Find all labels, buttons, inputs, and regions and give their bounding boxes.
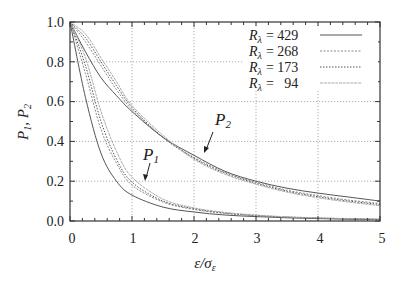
y-tick-labels: 0.0 0.2 0.4 0.6 0.8 1.0: [47, 15, 65, 229]
x-tick-label: 4: [317, 231, 324, 246]
legend: Rλ= 429 Rλ= 268 Rλ= 173 Rλ= 94: [244, 26, 378, 93]
x-tick-label: 1: [130, 231, 137, 246]
y-tick-label: 1.0: [47, 15, 65, 30]
y-tick-label: 0.6: [47, 94, 65, 109]
y-tick-label: 0.8: [47, 55, 65, 70]
x-tick-label: 3: [254, 231, 261, 246]
y-axis-label: P1, P2: [15, 104, 33, 141]
svg-text:Rλ= 94: Rλ= 94: [248, 76, 298, 93]
x-axis-label: ε/σε: [194, 255, 215, 273]
annotation-p2: P2: [204, 110, 231, 153]
x-tick-label: 2: [192, 231, 199, 246]
y-tick-label: 0.2: [47, 174, 65, 189]
x-tick-labels: 0 1 2 3 4 5: [69, 231, 386, 246]
svg-text:Rλ= 429: Rλ= 429: [248, 28, 298, 45]
y-tick-label: 0.0: [47, 214, 65, 229]
svg-text:P2: P2: [214, 110, 231, 130]
chart: 0.0 0.2 0.4 0.6 0.8 1.0 0 1 2 3 4 5 ε/σε…: [0, 0, 402, 284]
x-tick-label: 5: [379, 231, 386, 246]
y-tick-label: 0.4: [47, 134, 65, 149]
x-tick-label: 0: [69, 231, 76, 246]
svg-text:P1: P1: [142, 145, 159, 165]
svg-text:Rλ= 268: Rλ= 268: [248, 44, 298, 61]
svg-text:Rλ= 173: Rλ= 173: [248, 60, 298, 77]
annotation-p1: P1: [142, 145, 159, 181]
